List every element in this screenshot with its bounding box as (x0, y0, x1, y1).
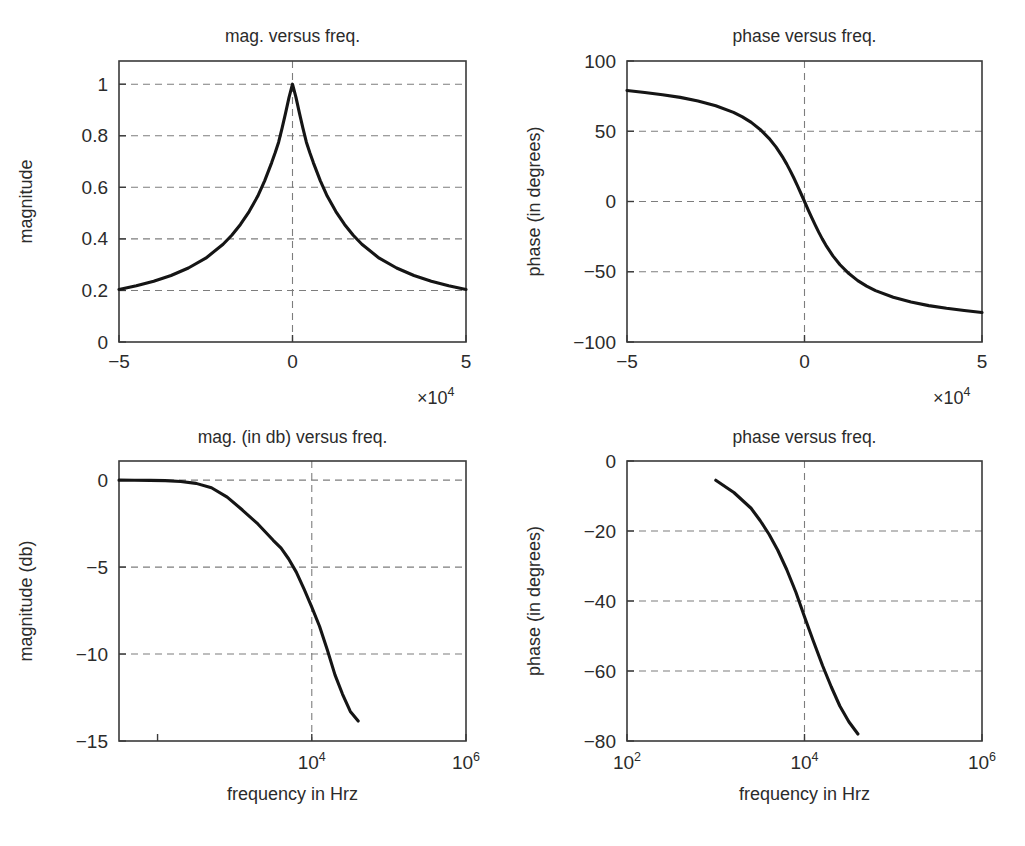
y-tick-label: 0 (605, 191, 616, 212)
four-panel-bode-figure: 00.20.40.60.81−505mag. versus freq.magni… (0, 0, 1025, 846)
panel-title: phase versus freq. (733, 26, 877, 46)
plot-frame (119, 461, 466, 741)
x-tick-label: 5 (977, 351, 988, 372)
x-tick-label: 104 (790, 750, 818, 773)
data-curve (716, 480, 858, 734)
y-axis-label: phase (in degrees) (524, 126, 544, 276)
y-tick-label: −100 (573, 332, 616, 353)
x-tick-label: 106 (452, 750, 480, 773)
y-tick-label: −80 (584, 731, 616, 752)
y-tick-label: 50 (595, 121, 616, 142)
y-tick-label: 0.8 (82, 125, 108, 146)
y-axis-label: phase (in degrees) (524, 526, 544, 676)
x-tick-label: 0 (799, 351, 810, 372)
x-axis-multiplier: ×104 (933, 385, 971, 408)
panel-mag-db: −15−10−50104106mag. (in db) versus freq.… (16, 427, 480, 804)
x-tick-label: 104 (298, 750, 326, 773)
panel-phase-linear: −100−50050100−505phase versus freq.phase… (524, 26, 987, 408)
y-axis-label: magnitude (db) (16, 540, 36, 661)
data-curve (119, 480, 358, 721)
x-tick-label: 5 (461, 351, 472, 372)
y-tick-label: 1 (97, 74, 108, 95)
panel-title: mag. (in db) versus freq. (198, 427, 388, 447)
y-tick-label: 100 (584, 51, 616, 72)
y-tick-label: 0 (605, 451, 616, 472)
x-axis-multiplier: ×104 (417, 385, 455, 408)
y-tick-label: −15 (76, 731, 108, 752)
figure-canvas: 00.20.40.60.81−505mag. versus freq.magni… (0, 0, 1025, 846)
panel-mag-linear: 00.20.40.60.81−505mag. versus freq.magni… (16, 26, 471, 408)
panel-title: phase versus freq. (733, 427, 877, 447)
y-tick-label: −50 (584, 261, 616, 282)
panel-title: mag. versus freq. (225, 26, 360, 46)
x-tick-label: 102 (613, 750, 641, 773)
y-tick-label: 0 (97, 470, 108, 491)
y-tick-label: 0.4 (82, 228, 109, 249)
x-axis-label: frequency in Hrz (227, 784, 358, 804)
y-tick-label: 0.6 (82, 177, 108, 198)
y-tick-label: −60 (584, 661, 616, 682)
x-tick-label: −5 (108, 351, 130, 372)
y-tick-label: −20 (584, 521, 616, 542)
x-axis-label: frequency in Hrz (739, 784, 870, 804)
y-tick-label: −5 (86, 557, 108, 578)
panel-phase-db: −80−60−40−200102104106phase versus freq.… (524, 427, 996, 804)
y-tick-label: −40 (584, 591, 616, 612)
x-tick-label: −5 (616, 351, 638, 372)
y-tick-label: 0 (97, 332, 108, 353)
y-tick-label: −10 (76, 644, 108, 665)
x-tick-label: 0 (287, 351, 298, 372)
x-tick-label: 106 (968, 750, 996, 773)
y-tick-label: 0.2 (82, 280, 108, 301)
y-axis-label: magnitude (16, 159, 36, 243)
